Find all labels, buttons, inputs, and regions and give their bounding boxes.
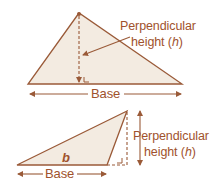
bottom-triangle-shape	[17, 111, 127, 165]
bottom-height-label-line1: Perpendicular	[133, 129, 209, 143]
bottom-right-angle-icon	[117, 158, 122, 163]
triangle-height-diagram: Perpendicular height (h) Base b Perpendi…	[0, 0, 218, 188]
top-height-label-prefix: height (	[131, 35, 172, 49]
bottom-height-label-line2: height (h)	[144, 145, 196, 159]
top-height-label-line2: height (h)	[131, 35, 183, 49]
top-height-label-suffix: )	[179, 35, 183, 49]
bottom-height-label-suffix: )	[192, 145, 196, 159]
bottom-base-label: Base	[45, 167, 74, 181]
bottom-side-label-b: b	[62, 150, 70, 165]
bottom-height-variable: h	[185, 145, 192, 159]
bottom-height-label-prefix: height (	[144, 145, 185, 159]
top-base-label: Base	[91, 87, 120, 101]
apex-dot	[77, 12, 81, 16]
top-height-variable: h	[172, 35, 179, 49]
top-height-label-line1: Perpendicular	[120, 19, 196, 33]
bottom-triangle	[17, 111, 140, 174]
